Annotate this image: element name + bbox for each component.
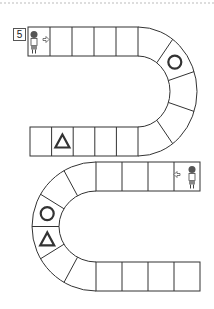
- game-board: [0, 0, 214, 309]
- cell-divider: [41, 194, 64, 209]
- cell-divider: [157, 39, 173, 62]
- cell-divider: [64, 257, 78, 282]
- right-arrow-icon: [43, 37, 49, 43]
- triangle-icon: [55, 135, 69, 148]
- cell-divider: [157, 120, 173, 143]
- cell-divider: [168, 72, 194, 81]
- head-icon: [189, 166, 196, 173]
- page-number: 5: [13, 28, 26, 41]
- legs-icon: [189, 181, 195, 185]
- legs-icon: [31, 46, 37, 50]
- character-girl-icon: [31, 31, 50, 54]
- body-icon: [31, 39, 37, 46]
- circle-icon: [168, 56, 181, 69]
- top-row: [28, 27, 138, 56]
- head-icon: [31, 31, 38, 38]
- character-boy-icon: [174, 166, 196, 189]
- middle-row: [30, 127, 138, 156]
- cell-divider: [64, 171, 78, 196]
- cell-divider: [168, 102, 194, 111]
- circle-icon: [41, 207, 54, 220]
- left-arrow-icon: [174, 172, 180, 178]
- body-icon: [189, 174, 195, 181]
- triangle-icon: [40, 232, 54, 245]
